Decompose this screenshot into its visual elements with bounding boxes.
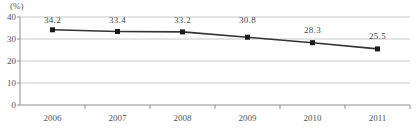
data-label-2007: 33.4 (101, 16, 135, 25)
data-label-2011: 25.5 (361, 32, 395, 41)
data-label-2010: 28.3 (296, 26, 330, 35)
figure-caption (0, 130, 417, 138)
y-tick-label-30: 30 (0, 35, 16, 44)
x-tick-marks (85, 105, 410, 109)
data-label-2008: 33.2 (166, 16, 200, 25)
x-tick-label-2009: 2009 (226, 114, 270, 123)
data-label-2006: 34.2 (36, 16, 70, 25)
x-tick-label-2008: 2008 (161, 114, 205, 123)
data-label-2009: 30.8 (231, 16, 265, 25)
x-tick-label-2007: 2007 (96, 114, 140, 123)
y-tick-label-20: 20 (0, 57, 16, 66)
chart-figure: (%) (0, 0, 417, 138)
x-tick-label-2006: 2006 (31, 114, 75, 123)
gridlines (20, 17, 410, 83)
x-tick-label-2010: 2010 (291, 114, 335, 123)
y-tick-label-0: 0 (0, 101, 16, 110)
x-tick-label-2011: 2011 (356, 114, 400, 123)
y-tick-label-10: 10 (0, 79, 16, 88)
y-tick-label-40: 40 (0, 13, 16, 22)
